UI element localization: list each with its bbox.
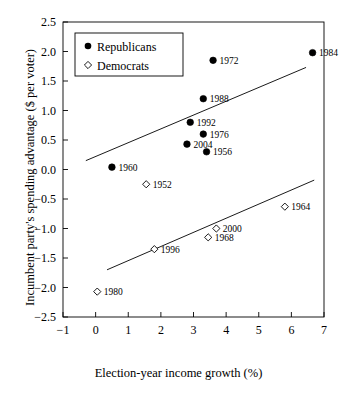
- data-point-2004[interactable]: [184, 141, 191, 148]
- y-axis-tick-label: −1.5: [34, 251, 56, 265]
- data-point-1988[interactable]: [200, 95, 207, 102]
- y-axis-tick-label: 0.5: [41, 133, 56, 147]
- data-point-label-2004: 2004: [193, 140, 212, 150]
- legend-label-republicans: Republicans: [97, 40, 157, 54]
- y-axis-tick-label: 2.5: [41, 15, 56, 29]
- data-point-1972[interactable]: [210, 57, 217, 64]
- data-point-1976[interactable]: [200, 131, 207, 138]
- legend-label-democrats: Democrats: [97, 59, 149, 73]
- legend-marker-republicans: [85, 43, 92, 50]
- data-point-label-1956: 1956: [213, 147, 232, 157]
- x-axis-tick-label: −1: [57, 323, 70, 337]
- data-point-1952[interactable]: [143, 181, 150, 188]
- plot-area: 2.52.01.51.00.50.0−0.5−1.0−1.5−2.0−2.5−1…: [0, 0, 357, 394]
- data-point-1980[interactable]: [94, 288, 101, 295]
- x-axis-tick-label: 6: [288, 323, 294, 337]
- y-axis-tick-label: −2.0: [34, 281, 56, 295]
- x-axis-tick-label: 0: [93, 323, 99, 337]
- data-point-1968[interactable]: [205, 234, 212, 241]
- data-point-1992[interactable]: [187, 119, 194, 126]
- x-axis-tick-label: 1: [125, 323, 131, 337]
- data-point-label-1988: 1988: [210, 94, 229, 104]
- data-point-label-1984: 1984: [319, 48, 338, 58]
- trend-line-democrats: [107, 180, 314, 270]
- scatter-chart-figure: Incumbent party's spending advantage ($ …: [0, 0, 357, 394]
- y-axis-tick-label: −2.5: [34, 310, 56, 324]
- data-point-1964[interactable]: [281, 203, 288, 210]
- data-point-label-1972: 1972: [220, 56, 239, 66]
- y-axis-tick-label: 0.0: [41, 163, 56, 177]
- data-point-label-1968: 1968: [215, 233, 234, 243]
- data-point-label-2000: 2000: [223, 224, 242, 234]
- y-axis-tick-label: −1.0: [34, 222, 56, 236]
- data-point-label-1976: 1976: [210, 130, 229, 140]
- data-point-label-1996: 1996: [161, 245, 180, 255]
- data-point-label-1960: 1960: [118, 163, 137, 173]
- data-point-2000[interactable]: [213, 225, 220, 232]
- data-point-1960[interactable]: [109, 164, 116, 171]
- data-point-label-1964: 1964: [291, 202, 310, 212]
- x-axis-tick-label: 4: [223, 323, 229, 337]
- data-point-1956[interactable]: [203, 149, 210, 156]
- data-point-label-1980: 1980: [104, 287, 123, 297]
- y-axis-tick-label: 1.0: [41, 104, 56, 118]
- y-axis-tick-label: 1.5: [41, 74, 56, 88]
- x-axis-tick-label: 7: [321, 323, 327, 337]
- data-point-1984[interactable]: [309, 49, 316, 56]
- x-axis-tick-label: 5: [256, 323, 262, 337]
- y-axis-tick-label: −0.5: [34, 192, 56, 206]
- data-point-label-1952: 1952: [153, 180, 172, 190]
- x-axis-tick-label: 2: [158, 323, 164, 337]
- x-axis-tick-label: 3: [191, 323, 197, 337]
- y-axis-tick-label: 2.0: [41, 45, 56, 59]
- data-point-1996[interactable]: [151, 246, 158, 253]
- data-point-label-1992: 1992: [197, 118, 216, 128]
